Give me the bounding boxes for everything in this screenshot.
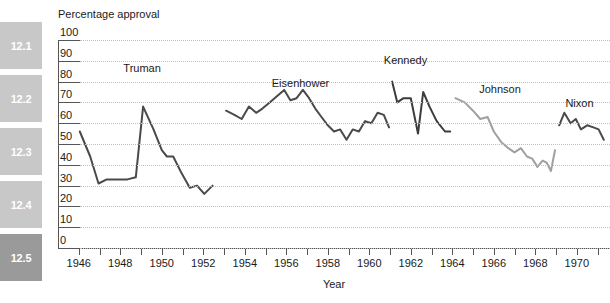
y-tick-label: 80 — [60, 68, 72, 80]
sidebar-tab-label: 12.1 — [11, 40, 32, 52]
series-label-kennedy: Kennedy — [384, 54, 427, 66]
y-gridline — [80, 123, 610, 124]
sidebar-tab-label: 12.2 — [11, 93, 32, 105]
x-tick-label: 1956 — [274, 257, 298, 269]
x-tick — [432, 249, 433, 255]
x-tick — [556, 249, 557, 255]
y-gridline — [80, 206, 610, 207]
x-tick — [245, 249, 246, 255]
x-tick — [328, 249, 329, 255]
y-tick-rule — [58, 248, 80, 249]
y-tick-label: 50 — [60, 130, 72, 142]
chart-axis-title-y: Percentage approval — [58, 8, 160, 20]
x-tick — [411, 249, 412, 255]
series-label-truman: Truman — [123, 62, 161, 74]
y-tick-label: 70 — [60, 88, 72, 100]
x-tick — [162, 249, 163, 255]
sidebar-tab-12-3[interactable]: 12.3 — [0, 128, 42, 175]
series-label-johnson: Johnson — [479, 83, 521, 95]
x-tick — [79, 249, 80, 255]
y-tick-label: 0 — [60, 234, 66, 246]
x-tick — [494, 249, 495, 255]
y-tick-rule — [58, 40, 80, 41]
x-tick-label: 1962 — [399, 257, 423, 269]
y-tick-rule — [58, 186, 80, 187]
series-label-eisenhower: Eisenhower — [272, 77, 329, 89]
x-tick — [120, 249, 121, 255]
y-tick-label: 20 — [60, 192, 72, 204]
x-tick — [349, 249, 350, 255]
x-tick — [515, 249, 516, 255]
y-tick-rule — [58, 144, 80, 145]
sidebar-tab-label: 12.3 — [11, 146, 32, 158]
x-tick-label: 1950 — [150, 257, 174, 269]
x-tick-label: 1966 — [482, 257, 506, 269]
x-tick — [390, 249, 391, 255]
y-tick-rule — [58, 61, 80, 62]
y-tick-label: 60 — [60, 109, 72, 121]
chart-axis-title-x: Year — [58, 278, 610, 290]
y-gridline — [80, 186, 610, 187]
x-tick — [452, 249, 453, 255]
y-tick-rule — [58, 123, 80, 124]
x-tick-label: 1954 — [233, 257, 257, 269]
y-gridline — [80, 40, 610, 41]
x-tick-label: 1946 — [67, 257, 91, 269]
x-tick-label: 1958 — [316, 257, 340, 269]
x-tick — [183, 249, 184, 255]
x-tick — [369, 249, 370, 255]
y-tick-label: 100 — [60, 26, 78, 38]
x-tick — [307, 249, 308, 255]
y-tick-rule — [58, 165, 80, 166]
x-tick — [535, 249, 536, 255]
x-tick-label: 1960 — [357, 257, 381, 269]
series-label-nixon: Nixon — [565, 97, 593, 109]
section-tab-sidebar: 12.112.212.312.412.5 — [0, 0, 42, 303]
y-gridline — [80, 248, 610, 249]
y-tick-rule — [58, 102, 80, 103]
x-tick — [473, 249, 474, 255]
x-tick — [141, 249, 142, 255]
y-gridline — [80, 165, 610, 166]
x-tick — [266, 249, 267, 255]
x-tick-label: 1964 — [440, 257, 464, 269]
x-tick-label: 1968 — [523, 257, 547, 269]
x-tick-label: 1948 — [108, 257, 132, 269]
x-tick — [224, 249, 225, 255]
y-gridline — [80, 227, 610, 228]
sidebar-tab-12-5[interactable]: 12.5 — [0, 234, 42, 281]
y-tick-label: 30 — [60, 172, 72, 184]
chart-page: 12.112.212.312.412.5 Percentage approval… — [0, 0, 610, 303]
y-tick-label: 40 — [60, 151, 72, 163]
y-tick-rule — [58, 206, 80, 207]
sidebar-tab-12-2[interactable]: 12.2 — [0, 75, 42, 122]
y-gridline — [80, 102, 610, 103]
x-tick — [577, 249, 578, 255]
x-tick — [100, 249, 101, 255]
y-tick-label: 90 — [60, 47, 72, 59]
x-tick-label: 1952 — [191, 257, 215, 269]
x-tick — [203, 249, 204, 255]
y-gridline — [80, 82, 610, 83]
y-tick-rule — [58, 227, 80, 228]
x-tick — [598, 249, 599, 255]
y-tick-label: 10 — [60, 213, 72, 225]
x-tick-label: 1970 — [565, 257, 589, 269]
sidebar-tab-label: 12.5 — [11, 252, 32, 264]
sidebar-tab-12-1[interactable]: 12.1 — [0, 22, 42, 69]
x-tick — [286, 249, 287, 255]
y-gridline — [80, 144, 610, 145]
sidebar-tab-label: 12.4 — [11, 199, 32, 211]
sidebar-tab-12-4[interactable]: 12.4 — [0, 181, 42, 228]
y-tick-rule — [58, 82, 80, 83]
